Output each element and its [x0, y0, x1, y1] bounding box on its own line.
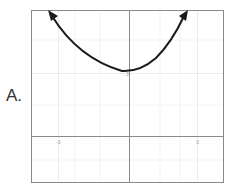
x-tick-label-neg3: -3	[56, 139, 61, 145]
parabola-curve	[52, 16, 184, 71]
grid-lines	[31, 10, 224, 183]
left-arrowhead-icon	[48, 10, 58, 21]
graph: -3 3 3	[0, 0, 233, 188]
x-tick-label-3: 3	[196, 139, 199, 145]
plot-frame	[32, 11, 224, 183]
